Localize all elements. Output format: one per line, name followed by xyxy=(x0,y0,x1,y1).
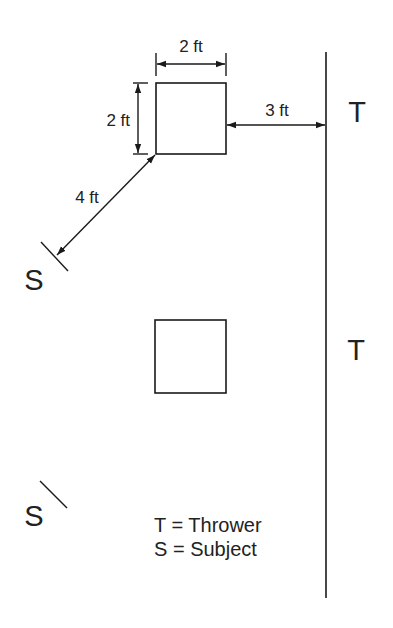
subject-bottom-tick xyxy=(40,481,67,508)
box-height-dimension: 2 ft xyxy=(106,83,148,154)
subject-top-marker: S xyxy=(24,264,43,296)
legend-thrower: T = Thrower xyxy=(154,514,262,536)
legend: T = Thrower S = Subject xyxy=(154,514,262,560)
box-to-subject-dimension: 4 ft xyxy=(57,155,155,255)
thrower-bottom-marker: T xyxy=(347,334,365,366)
subject-bottom-marker: S xyxy=(24,500,43,532)
box-width-label: 2 ft xyxy=(179,37,203,56)
thrower-top-marker: T xyxy=(348,96,366,128)
throwing-setup-diagram: 2 ft 2 ft 3 ft 4 ft T T S S T = Thrower … xyxy=(0,0,393,628)
box-width-dimension: 2 ft xyxy=(156,37,226,76)
subject-top-tick xyxy=(41,242,68,271)
box-to-thrower-dimension: 3 ft xyxy=(227,101,325,125)
legend-subject: S = Subject xyxy=(154,538,257,560)
top-box xyxy=(156,83,226,154)
box-to-subject-label: 4 ft xyxy=(75,188,99,207)
bottom-box xyxy=(155,320,226,393)
box-to-thrower-label: 3 ft xyxy=(265,101,289,120)
box-height-label: 2 ft xyxy=(106,111,130,130)
